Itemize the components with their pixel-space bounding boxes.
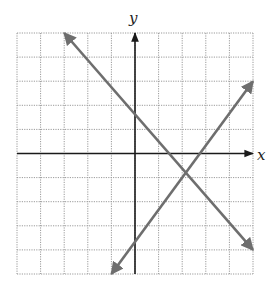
coordinate-plane: y x [0, 0, 280, 291]
axes [17, 33, 253, 274]
decreasing-line [64, 33, 253, 250]
x-axis-label: x [257, 146, 266, 164]
y-axis-label: y [128, 9, 138, 27]
